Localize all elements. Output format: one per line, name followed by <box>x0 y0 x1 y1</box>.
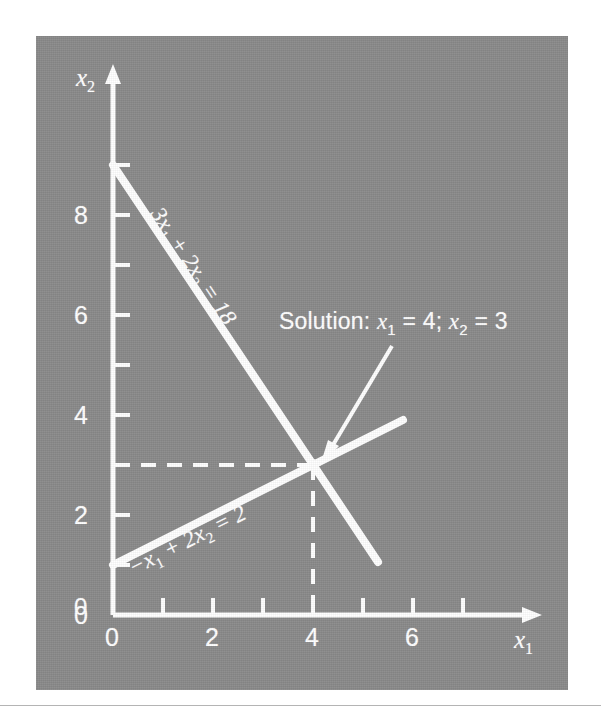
solution-x2-value: = 3 <box>468 308 508 334</box>
solution-x2-var: x <box>449 309 459 334</box>
x-axis <box>113 607 542 623</box>
origin-zero-label: 0 <box>74 593 87 621</box>
solution-prefix: Solution: <box>279 308 377 334</box>
y-tick-label-4: 4 <box>74 401 88 430</box>
y-axis-ticks <box>113 165 130 565</box>
plot-canvas <box>36 36 568 690</box>
solution-x1-var: x <box>377 309 387 334</box>
solution-point-marker <box>307 459 319 471</box>
y-tick-label-8: 8 <box>74 201 88 230</box>
x-tick-label-6: 6 <box>405 623 419 652</box>
y-tick-label-6: 6 <box>74 301 88 330</box>
solution-pointer-arrow <box>320 346 392 466</box>
page-bottom-rule <box>0 705 601 706</box>
y-axis-label-var: x <box>76 64 87 91</box>
solution-x1-sub: 1 <box>387 321 396 338</box>
x-tick-label-2: 2 <box>205 623 219 652</box>
y-axis-label-sub: 2 <box>87 78 95 95</box>
x-axis-label-sub: 1 <box>525 640 533 657</box>
x-axis-label-var: x <box>514 626 525 653</box>
y-axis-label: x2 <box>76 64 95 96</box>
solution-x1-value: = 4; <box>396 308 449 334</box>
solution-annotation-label: Solution: x1 = 4; x2 = 3 <box>279 308 508 338</box>
solution-x2-sub: 2 <box>459 321 468 338</box>
x-tick-label-4: 4 <box>305 623 319 652</box>
x-tick-label-0: 0 <box>105 623 119 652</box>
y-axis <box>105 64 121 615</box>
y-tick-label-2: 2 <box>74 501 88 530</box>
x-axis-label: x1 <box>514 626 533 658</box>
figure-panel: 0 2 4 6 8 0 2 4 6 x2 x1 Solution: x1 = 4… <box>36 36 568 690</box>
